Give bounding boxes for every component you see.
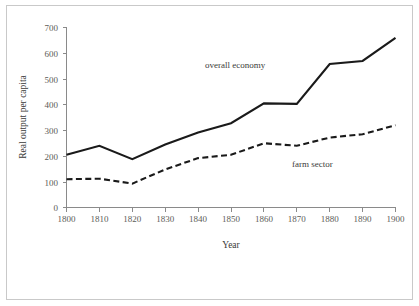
y-axis-title: Real output per capita (18, 74, 28, 158)
y-tick-label-100: 100 (45, 178, 59, 188)
x-axis-title: Year (222, 240, 240, 250)
series-line-farm-sector (67, 125, 396, 183)
x-tick-label-1890: 1890 (354, 214, 373, 224)
y-tick-label-600: 600 (45, 49, 59, 59)
x-tick-label-1800: 1800 (58, 214, 77, 224)
x-tick-label-1820: 1820 (123, 214, 142, 224)
y-tick-label-400: 400 (45, 100, 59, 110)
annotation-farm-sector: farm sector (292, 159, 333, 169)
x-tick-label-1870: 1870 (288, 214, 307, 224)
y-tick-label-700: 700 (45, 23, 59, 33)
x-axis-ticks (67, 208, 396, 212)
x-tick-label-1840: 1840 (189, 214, 208, 224)
y-tick-label-300: 300 (45, 126, 59, 136)
x-tick-label-1900: 1900 (387, 214, 406, 224)
series-line-overall-economy (67, 38, 396, 159)
y-axis-ticks (63, 28, 67, 208)
x-tick-label-1850: 1850 (222, 214, 241, 224)
chart-figure: 700 600 500 400 300 200 100 0 1800 1810 … (0, 0, 419, 306)
x-tick-label-1880: 1880 (321, 214, 340, 224)
y-tick-label-0: 0 (54, 203, 59, 213)
line-chart: 700 600 500 400 300 200 100 0 1800 1810 … (0, 0, 419, 306)
x-tick-label-1860: 1860 (255, 214, 274, 224)
x-tick-label-1830: 1830 (156, 214, 175, 224)
x-tick-label-1810: 1810 (90, 214, 109, 224)
y-tick-label-200: 200 (45, 152, 59, 162)
annotation-overall-economy: overall economy (205, 60, 266, 70)
y-tick-label-500: 500 (45, 75, 59, 85)
